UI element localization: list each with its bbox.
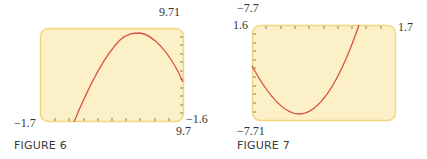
figure-7-viewport: [253, 26, 396, 121]
figure-6-xmin-label: −1.7: [14, 117, 36, 129]
figure-6-ymin-label: −1.6: [186, 113, 208, 125]
figure-7-ymax-label: 1.6: [233, 19, 248, 31]
figure-6-caption: FIGURE 6: [14, 140, 67, 151]
figure-container: 9.71 −1.7 9.7 −1.6 FIGURE 6 −7.7 1.6 1.7…: [0, 0, 427, 159]
figure-6-viewport: [41, 29, 184, 122]
figure-6-plot: [0, 0, 427, 159]
figure-7-xmin-label: −7.7: [237, 2, 259, 14]
figure-7-xmax-label: 1.7: [398, 21, 413, 33]
figure-7-ymin-label: −7.71: [237, 125, 265, 137]
figure-6-xmax-label: 9.7: [176, 125, 191, 137]
figure-7-caption: FIGURE 7: [237, 140, 290, 151]
figure-6-ymax-label: 9.71: [159, 6, 180, 18]
